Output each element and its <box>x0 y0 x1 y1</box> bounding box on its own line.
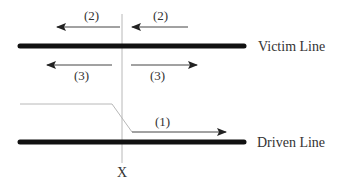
driven-signal-step <box>20 104 132 132</box>
crosstalk-diagram: Victim Line Driven Line (2) (2) (3) (3) … <box>0 0 337 186</box>
label-3-right: (3) <box>150 68 165 83</box>
label-2-left: (2) <box>84 8 99 23</box>
driven-line-label: Driven Line <box>257 135 325 150</box>
x-marker-label: X <box>117 165 127 180</box>
label-2-right: (2) <box>153 8 168 23</box>
label-1: (1) <box>155 114 170 129</box>
label-3-left: (3) <box>74 68 89 83</box>
victim-line-label: Victim Line <box>258 39 325 54</box>
